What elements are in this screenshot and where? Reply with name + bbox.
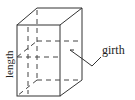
girth-dashed-lines [17, 10, 82, 96]
girth-arrow-tail [92, 57, 101, 66]
box-front-face [17, 25, 60, 96]
box-diagram: girth length [0, 0, 135, 100]
girth-arrow-line [70, 50, 92, 66]
girth-arrow [70, 50, 101, 66]
girth-left-diagonal [17, 41, 37, 57]
box-top-face [17, 8, 82, 25]
length-label: length [3, 50, 15, 78]
girth-bottom-diagonal [17, 80, 37, 96]
box-right-face [60, 8, 82, 96]
girth-label: girth [102, 43, 125, 57]
